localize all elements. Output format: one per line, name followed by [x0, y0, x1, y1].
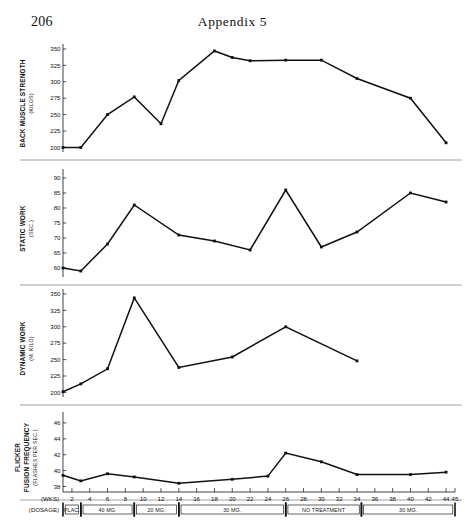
dosage-label-2: 20 MG. — [147, 507, 165, 513]
y-tick-label-static-work-60: 60 — [54, 264, 61, 271]
data-point-static-work-4 — [177, 234, 180, 237]
data-point-static-work-1 — [79, 270, 82, 273]
data-point-flicker-fusion-frequency-9 — [356, 473, 359, 476]
y-tick-label-static-work-90: 90 — [54, 174, 61, 181]
data-point-flicker-fusion-frequency-11 — [445, 471, 448, 474]
chart-canvas: 200225250275300325350BACK MUSCLE STRENGT… — [0, 0, 465, 527]
x-tick-label-40: 40 — [407, 495, 414, 502]
data-point-back-muscle-strength-8 — [249, 59, 252, 62]
data-point-back-muscle-strength-11 — [356, 77, 359, 80]
data-point-flicker-fusion-frequency-4 — [177, 482, 180, 485]
data-point-dynamic-work-3 — [133, 297, 136, 300]
panel-static-work: 60657075808590STATIC WORK(SEC.) — [19, 169, 462, 285]
data-point-flicker-fusion-frequency-10 — [409, 473, 412, 476]
x-tick-label-34: 34 — [354, 495, 361, 502]
y-axis-units-back-muscle-strength: (KILOS) — [28, 93, 34, 113]
y-tick-label-dynamic-work-300: 300 — [50, 323, 61, 330]
x-tick-label-42: 42 — [425, 495, 432, 502]
x-tick-label-10: 10 — [140, 495, 147, 502]
x-tick-label-24: 24 — [265, 495, 272, 502]
y-axis-units-flicker-fusion-frequency: (FLASHES PER SEC.) — [32, 429, 38, 485]
x-tick-label-45: 45 — [452, 495, 459, 502]
data-point-dynamic-work-1 — [79, 382, 82, 385]
data-point-flicker-fusion-frequency-6 — [267, 475, 270, 478]
y-tick-label-back-muscle-strength-225: 225 — [50, 127, 61, 134]
y-tick-label-dynamic-work-350: 350 — [50, 290, 61, 297]
y-tick-label-flicker-fusion-frequency-38: 38 — [54, 483, 61, 490]
y-axis-units-dynamic-work: (M. KILO) — [28, 336, 34, 360]
x-tick-label-8: 8 — [124, 495, 128, 502]
data-point-back-muscle-strength-3 — [133, 95, 136, 98]
series-line-flicker-fusion-frequency — [63, 453, 446, 483]
y-tick-label-back-muscle-strength-300: 300 — [50, 78, 61, 85]
y-tick-label-dynamic-work-325: 325 — [50, 307, 61, 314]
data-point-back-muscle-strength-4 — [160, 122, 163, 125]
data-point-flicker-fusion-frequency-2 — [106, 472, 109, 475]
dosage-label-5: 30 MG. — [399, 507, 417, 513]
y-axis-title2-flicker-fusion-frequency: FUSION FREQUENCY — [23, 422, 31, 492]
dosage-label-0: PLAC. — [64, 507, 80, 513]
y-tick-label-static-work-70: 70 — [54, 234, 61, 241]
y-tick-label-dynamic-work-275: 275 — [50, 339, 61, 346]
y-axis-title-flicker-fusion-frequency: FLICKER — [14, 443, 21, 472]
data-point-static-work-5 — [213, 240, 216, 243]
x-tick-label-18: 18 — [211, 495, 218, 502]
x-tick-label-36: 36 — [371, 495, 378, 502]
data-point-dynamic-work-7 — [356, 360, 359, 363]
y-tick-label-back-muscle-strength-325: 325 — [50, 62, 61, 69]
x-tick-label-6: 6 — [106, 495, 110, 502]
appendix-page: 206 Appendix 5 200225250275300325350BACK… — [0, 0, 465, 527]
x-axis-title: (WKS) — [41, 495, 59, 502]
data-point-back-muscle-strength-7 — [231, 56, 234, 59]
data-point-static-work-8 — [320, 246, 323, 249]
x-tick-label-4: 4 — [88, 495, 92, 502]
y-tick-label-dynamic-work-250: 250 — [50, 356, 61, 363]
data-point-back-muscle-strength-10 — [320, 59, 323, 62]
y-tick-label-back-muscle-strength-275: 275 — [50, 94, 61, 101]
data-point-back-muscle-strength-13 — [445, 141, 448, 144]
x-tick-label-22: 22 — [247, 495, 254, 502]
x-tick-label-32: 32 — [336, 495, 343, 502]
data-point-dynamic-work-6 — [284, 325, 287, 328]
data-point-static-work-9 — [356, 231, 359, 234]
y-tick-label-static-work-65: 65 — [54, 249, 61, 256]
data-point-flicker-fusion-frequency-7 — [284, 452, 287, 455]
data-point-dynamic-work-2 — [106, 367, 109, 370]
y-tick-label-flicker-fusion-frequency-40: 40 — [54, 467, 61, 474]
y-tick-label-back-muscle-strength-350: 350 — [50, 45, 61, 52]
y-tick-label-back-muscle-strength-250: 250 — [50, 111, 61, 118]
dosage-label-3: 30 MG. — [223, 507, 241, 513]
x-tick-label-26: 26 — [282, 495, 289, 502]
y-tick-label-flicker-fusion-frequency-44: 44 — [54, 435, 61, 442]
data-point-static-work-2 — [106, 243, 109, 246]
y-tick-label-back-muscle-strength-200: 200 — [50, 144, 61, 151]
y-tick-label-static-work-85: 85 — [54, 189, 61, 196]
panel-back-muscle-strength: 200225250275300325350BACK MUSCLE STRENGT… — [19, 44, 462, 160]
data-point-back-muscle-strength-12 — [409, 97, 412, 100]
series-line-dynamic-work — [63, 298, 357, 392]
y-axis-units-static-work: (SEC.) — [28, 220, 34, 237]
multi-panel-line-chart: 200225250275300325350BACK MUSCLE STRENGT… — [0, 0, 465, 527]
y-tick-label-dynamic-work-225: 225 — [50, 372, 61, 379]
series-line-back-muscle-strength — [63, 51, 446, 147]
dosage-row-label: (DOSAGE) — [29, 506, 59, 513]
data-point-static-work-0 — [62, 267, 65, 270]
y-tick-label-flicker-fusion-frequency-46: 46 — [54, 419, 61, 426]
data-point-dynamic-work-0 — [62, 390, 65, 393]
data-point-flicker-fusion-frequency-0 — [62, 474, 65, 477]
x-axis: 2468101214161820222426283032343638404244… — [41, 488, 459, 502]
x-tick-label-38: 38 — [389, 495, 396, 502]
data-point-back-muscle-strength-1 — [79, 146, 82, 149]
data-point-dynamic-work-4 — [177, 366, 180, 369]
x-tick-label-20: 20 — [229, 495, 236, 502]
y-tick-label-static-work-75: 75 — [54, 219, 61, 226]
data-point-flicker-fusion-frequency-3 — [133, 476, 136, 479]
y-axis-title-static-work: STATIC WORK — [19, 205, 26, 252]
dosage-row: (DOSAGE)PLAC.40 MG.20 MG.30 MG.NO TREATM… — [29, 503, 455, 517]
data-point-back-muscle-strength-2 — [106, 113, 109, 116]
x-tick-label-14: 14 — [175, 495, 182, 502]
data-point-flicker-fusion-frequency-8 — [320, 460, 323, 463]
data-point-back-muscle-strength-9 — [284, 59, 287, 62]
data-point-flicker-fusion-frequency-1 — [79, 479, 82, 482]
data-point-static-work-3 — [133, 204, 136, 207]
